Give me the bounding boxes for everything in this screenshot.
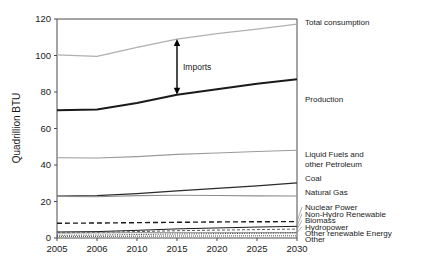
y-tick-label: 40 [40,159,51,170]
chart-figure: 020406080100120 200520062010201520202025… [0,0,427,270]
series-line [57,150,297,158]
y-tick-label: 120 [35,13,51,24]
y-tick-label: 100 [35,50,51,61]
series-line [57,229,297,232]
series-label-line: other Petroleum [305,160,362,169]
series-label: Natural Gas [305,188,348,197]
y-tick-label: 0 [46,232,51,243]
series-label: Coal [305,174,322,183]
series-line [57,222,297,224]
series-label-line: Liquid Fuels and [305,150,364,159]
y-tick-label: 20 [40,196,51,207]
series-label-line: Natural Gas [305,188,348,197]
series-labels: Total consumptionProductionLiquid Fuels … [305,18,392,245]
x-axis-ticks: 2005200620102015202020252030 [46,238,307,254]
series-line [57,183,297,196]
chart-annotations: Imports [174,39,212,95]
series-label: Production [305,95,343,104]
series-line [57,236,297,237]
series-label-line: Production [305,95,343,104]
series-leader-lines [297,207,302,233]
y-axis-title: Quadrillion BTU [11,93,22,164]
y-tick-label: 80 [40,86,51,97]
series-label: Total consumption [305,18,369,27]
x-tick-label: 2015 [166,243,187,254]
x-tick-label: 2005 [46,243,67,254]
x-tick-label: 2020 [206,243,227,254]
x-tick-label: 2030 [286,243,307,254]
energy-outlook-line-chart: 020406080100120 200520062010201520202025… [0,0,427,270]
series-label-line: Coal [305,174,322,183]
x-tick-label: 2006 [86,243,107,254]
x-tick-label: 2025 [246,243,267,254]
series-label-line: Total consumption [305,18,369,27]
series-label: Liquid Fuels andother Petroleum [305,150,364,169]
series-label-line: Other [305,235,325,244]
y-axis-ticks: 020406080100120 [35,13,57,243]
x-tick-label: 2010 [126,243,147,254]
y-tick-label: 60 [40,123,51,134]
imports-annotation-label: Imports [183,62,211,72]
series-label: Other [305,235,325,244]
